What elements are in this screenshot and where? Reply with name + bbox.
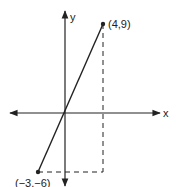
y-axis-label: y	[70, 11, 76, 23]
point-label-neg3-neg6: (−3,−6)	[15, 177, 50, 187]
point-4-9	[101, 22, 105, 26]
point-neg3-neg6	[36, 170, 40, 174]
point-label-4-9: (4,9)	[108, 18, 131, 30]
line-segment	[38, 24, 103, 172]
coordinate-diagram: y x (4,9) (−3,−6)	[0, 0, 176, 187]
x-axis-label: x	[163, 107, 169, 119]
